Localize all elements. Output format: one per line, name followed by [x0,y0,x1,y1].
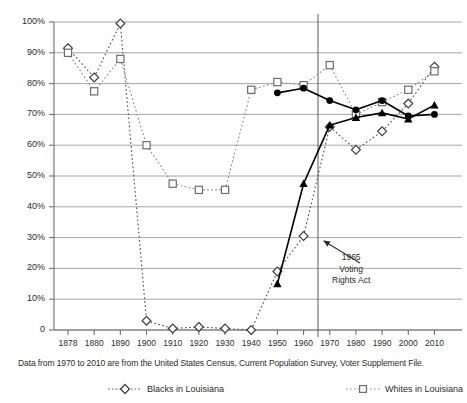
series-segment [147,145,173,184]
data-point-open-square [248,86,255,93]
series-segment [120,24,146,321]
series-segment [304,125,330,184]
series-segment [225,90,251,190]
data-point-open-square [195,186,202,193]
data-point-filled-triangle [430,101,438,109]
data-point-open-diamond [90,73,99,82]
data-point-open-square [431,68,438,75]
data-point-open-square [143,142,150,149]
x-axis-label: 2010 [414,338,454,348]
y-axis-label: 90% [0,47,45,57]
data-point-open-diamond [142,316,151,325]
legend-item-blacks: Blacks in Louisiana [108,379,224,399]
series-open-square [64,49,438,193]
y-axis-label: 40% [0,201,45,211]
legend-label-blacks: Blacks in Louisiana [147,384,224,394]
data-point-filled-triangle [378,109,386,117]
series-segment [68,53,94,92]
y-axis-label: 80% [0,78,45,88]
chart-legend: Blacks in Louisiana Whites in Louisiana [0,379,467,399]
series-segment [94,24,120,78]
open-square-dotted-icon [346,383,380,395]
data-point-filled-circle [353,106,360,113]
data-point-filled-circle [300,85,307,92]
y-axis-ticks [49,22,54,330]
y-axis-label: 70% [0,108,45,118]
data-point-open-square [117,55,124,62]
data-point-open-square [221,186,228,193]
data-point-open-square [274,78,281,85]
series-layer [64,19,439,334]
annotation-voting-rights-act: 1965 Voting Rights Act [332,252,370,287]
annotation-line-2: Voting [332,264,370,276]
y-axis-label: 100% [0,16,45,26]
open-diamond-dotted-icon [108,383,142,395]
data-point-filled-circle [379,97,386,104]
data-point-filled-circle [326,97,333,104]
data-point-open-diamond [299,232,308,241]
data-point-filled-circle [431,111,438,118]
y-axis-label: 50% [0,170,45,180]
data-point-open-square [91,88,98,95]
series-segment [330,127,356,150]
data-point-filled-triangle [299,180,307,188]
series-segment [94,59,120,91]
annotation-line-1: 1965 [332,252,370,264]
data-point-open-square [326,62,333,69]
series-segment [330,101,356,110]
data-point-open-diamond [168,324,177,333]
series-open-diamond [64,19,439,334]
data-point-open-diamond [352,145,361,154]
legend-item-whites: Whites in Louisiana [346,379,463,399]
data-point-open-square [405,86,412,93]
series-segment [304,88,330,100]
chart-caption: Data from 1970 to 2010 are from the Unit… [18,358,424,368]
y-axis-label: 20% [0,262,45,272]
series-segment [330,65,356,114]
data-point-open-diamond [116,19,125,28]
data-point-open-square [64,49,71,56]
y-axis-label: 60% [0,139,45,149]
series-segment [277,88,303,93]
y-axis-label: 10% [0,293,45,303]
data-point-open-square [169,180,176,187]
series-segment [251,271,277,330]
data-point-filled-circle [274,89,281,96]
legend-label-whites: Whites in Louisiana [385,384,463,394]
series-segment [356,131,382,149]
annotation-line-3: Rights Act [332,275,370,287]
series-segment [408,105,434,119]
series-segment [120,59,146,145]
series-segment [304,127,330,236]
series-segment [330,117,356,125]
y-axis-label: 0 [0,324,45,334]
data-point-open-diamond [247,326,256,335]
chart-figure: 010%20%30%40%50%60%70%80%90%100% 1878188… [0,0,467,403]
data-point-open-diamond [221,324,230,333]
gridlines [54,22,462,330]
data-point-filled-triangle [273,280,281,288]
y-axis-label: 30% [0,232,45,242]
